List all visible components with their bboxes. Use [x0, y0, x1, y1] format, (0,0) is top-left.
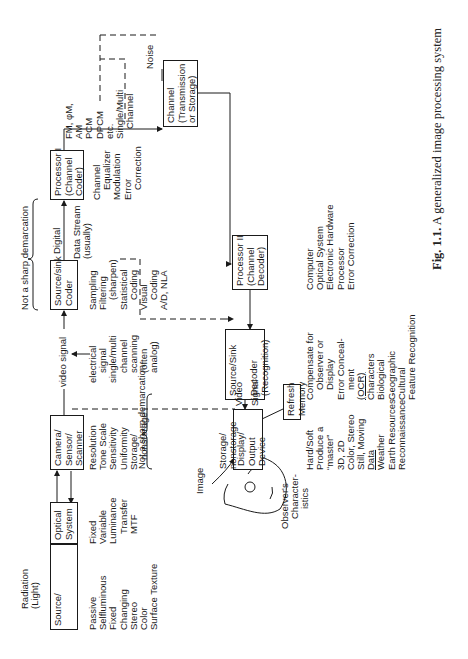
- storage-nonstorage-label: Storage/ nonstorage: [218, 421, 238, 469]
- data-stream-label: Data Stream (usually): [72, 206, 92, 259]
- channel-box: Channel (Transmission or Storage): [163, 60, 198, 127]
- source-object-box: Source/: [50, 544, 78, 630]
- camera-sensor-scanner-box: Camera/ Sensor/ Scanner: [50, 415, 84, 470]
- modulation-list: FM, φM, AM PCM DPCM etc. Single/Multi Ch…: [64, 90, 135, 139]
- observer-characteristics-label: Observer's Character- istics: [280, 474, 311, 529]
- video-label: Video: [234, 382, 244, 406]
- source-properties-list: Passive Selfluminous Fixed Changing Ster…: [88, 564, 159, 630]
- radiation-label: Radiation (Light): [20, 569, 40, 609]
- processor-2-box: Processor II (Channel Decoder): [232, 235, 268, 290]
- source-sink-coder-box: Source/sink Coder: [50, 260, 78, 310]
- figure-caption: Fig. 1.1. A generalized image processing…: [430, 28, 445, 270]
- not-sharp-demarcation-top-label: Not a sharp demarcation: [20, 206, 30, 310]
- figure-caption-text: A generalized image processing system: [430, 28, 444, 225]
- signal-properties-list: electrical signal single/multi channel s…: [88, 335, 159, 383]
- processor1-properties-list: Channel Equalizer Modulation Error Corre…: [92, 146, 143, 200]
- refresh-memory-box: Refresh Memory: [283, 384, 301, 420]
- image-processing-diagram: Source/ Optical System Camera/ Sensor/ S…: [0, 0, 468, 659]
- figure-caption-label: Fig. 1.1.: [430, 228, 444, 270]
- digital-label: Digital: [52, 228, 62, 254]
- processor2-properties-list: Computer Optical System Electronic Hardw…: [305, 204, 356, 290]
- coder-properties-list: Sampling Filtering (sharpen) Statistical…: [88, 259, 170, 310]
- video-signal-label: video signal: [58, 337, 68, 387]
- decoder-properties-list: Compensate for Observer or Display Error…: [305, 314, 417, 400]
- noise-label: Noise: [145, 45, 155, 69]
- optical-system-box: Optical System: [50, 502, 78, 544]
- optical-properties-list: Fixed Variable Luminance Transfer MTF: [88, 498, 139, 544]
- signal-label: Signal: [250, 380, 260, 406]
- image-label: Image: [195, 468, 205, 494]
- processor-1-box: Processor I (Channel Coder): [50, 150, 84, 200]
- camera-properties-list: Resolution Tone Scale Sensitivity Unifor…: [88, 412, 149, 470]
- display-properties-list: Hard/Soft Produce a “master” 3D, 2D Colo…: [305, 399, 407, 470]
